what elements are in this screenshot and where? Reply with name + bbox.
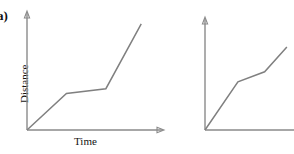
data-line-b [205,47,287,130]
data-line-a [27,24,141,130]
distance-time-polyline [27,24,141,130]
distance-time-polyline [205,47,287,130]
figure-container: a) Distance Time b) Distance Time [0,0,294,154]
axes-group-a [24,11,164,133]
plot-vector-layer [0,0,294,154]
